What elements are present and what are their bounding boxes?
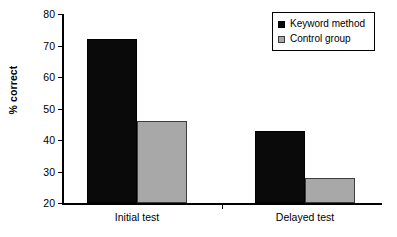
y-tick-label-20: 20 bbox=[43, 197, 55, 209]
y-tick-label-40: 40 bbox=[43, 134, 55, 146]
bar-chart: % correct 20 30 40 50 60 70 80 Initial t… bbox=[0, 0, 397, 237]
x-axis-label-initial-test: Initial test bbox=[115, 211, 159, 223]
y-tick-70 bbox=[58, 46, 62, 47]
black-square-swatch-icon bbox=[278, 21, 285, 28]
x-tick-group-separator bbox=[222, 203, 223, 209]
y-tick-20 bbox=[58, 203, 62, 204]
legend-label-control-group: Control group bbox=[290, 34, 351, 44]
y-axis-line bbox=[62, 14, 64, 203]
legend: Keyword method Control group bbox=[272, 12, 375, 51]
y-tick-50 bbox=[58, 109, 62, 110]
y-tick-label-60: 60 bbox=[43, 71, 55, 83]
y-tick-80 bbox=[58, 14, 62, 15]
legend-item-control-group: Control group bbox=[278, 32, 369, 46]
bar-control-delayed bbox=[305, 178, 355, 203]
bar-keyword-delayed bbox=[255, 131, 305, 203]
y-tick-40 bbox=[58, 140, 62, 141]
legend-item-keyword-method: Keyword method bbox=[278, 17, 369, 31]
y-axis-title: % correct bbox=[7, 45, 21, 135]
y-tick-label-30: 30 bbox=[43, 166, 55, 178]
gray-square-swatch-icon bbox=[278, 36, 285, 43]
y-tick-60 bbox=[58, 77, 62, 78]
bar-keyword-initial bbox=[87, 39, 137, 203]
y-tick-30 bbox=[58, 172, 62, 173]
y-tick-label-70: 70 bbox=[43, 40, 55, 52]
y-tick-label-80: 80 bbox=[43, 8, 55, 20]
y-tick-label-50: 50 bbox=[43, 103, 55, 115]
x-axis-label-delayed-test: Delayed test bbox=[276, 211, 334, 223]
bar-control-initial bbox=[137, 121, 187, 203]
legend-label-keyword-method: Keyword method bbox=[290, 19, 365, 29]
